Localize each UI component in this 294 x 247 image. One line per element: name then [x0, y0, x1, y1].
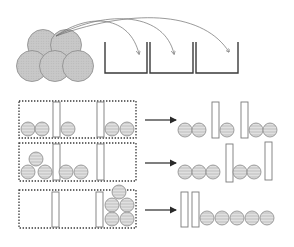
top-illustration: [17, 18, 239, 82]
ball-icon: [192, 165, 206, 179]
bar-icon: [192, 192, 199, 227]
ball-icon: [206, 165, 220, 179]
ball-icon: [263, 123, 277, 137]
ball-pile: [17, 30, 94, 82]
ball-icon: [63, 51, 94, 82]
right-arrangement: [181, 192, 274, 227]
ball-icon: [245, 211, 259, 225]
right-arrangement: [178, 102, 277, 138]
ball-icon: [59, 165, 73, 179]
arrangement-row: [19, 185, 274, 228]
ball-icon: [215, 211, 229, 225]
ball-icon: [29, 152, 43, 166]
left-arrangement: [21, 102, 134, 137]
ball-icon: [200, 211, 214, 225]
bar-icon: [241, 102, 248, 138]
distribution-arrows: [56, 18, 229, 54]
ball-icon: [120, 212, 134, 226]
arrangement-rows: [19, 101, 277, 228]
bar-icon: [96, 192, 103, 227]
bar-icon: [226, 144, 233, 182]
ball-icon: [61, 122, 75, 136]
bar-icon: [53, 102, 60, 137]
arrangement-row: [19, 101, 277, 138]
ball-icon: [120, 198, 134, 212]
stars-and-bars-diagram: [0, 0, 294, 247]
ball-icon: [260, 211, 274, 225]
left-arrangement: [21, 144, 104, 180]
ball-icon: [192, 123, 206, 137]
bar-icon: [181, 192, 188, 227]
ball-icon: [112, 185, 126, 199]
arrangement-row: [19, 142, 272, 182]
ball-icon: [220, 123, 234, 137]
bin-icon: [105, 42, 147, 73]
bar-icon: [53, 144, 60, 180]
ball-icon: [21, 122, 35, 136]
bar-icon: [52, 192, 59, 227]
ball-icon: [120, 122, 134, 136]
bin-icon: [196, 42, 238, 73]
ball-icon: [74, 165, 88, 179]
bar-icon: [97, 102, 104, 137]
bar-icon: [265, 142, 272, 180]
ball-icon: [230, 211, 244, 225]
bar-icon: [97, 144, 104, 180]
ball-icon: [21, 165, 35, 179]
ball-icon: [178, 123, 192, 137]
ball-icon: [233, 165, 247, 179]
ball-icon: [38, 165, 52, 179]
diagram-canvas: [0, 0, 294, 247]
ball-icon: [35, 122, 49, 136]
ball-icon: [105, 122, 119, 136]
ball-icon: [249, 123, 263, 137]
right-arrangement: [178, 142, 272, 182]
ball-icon: [105, 198, 119, 212]
left-arrangement: [52, 185, 134, 227]
ball-icon: [178, 165, 192, 179]
ball-icon: [247, 165, 261, 179]
ball-icon: [105, 212, 119, 226]
bar-icon: [212, 102, 219, 138]
